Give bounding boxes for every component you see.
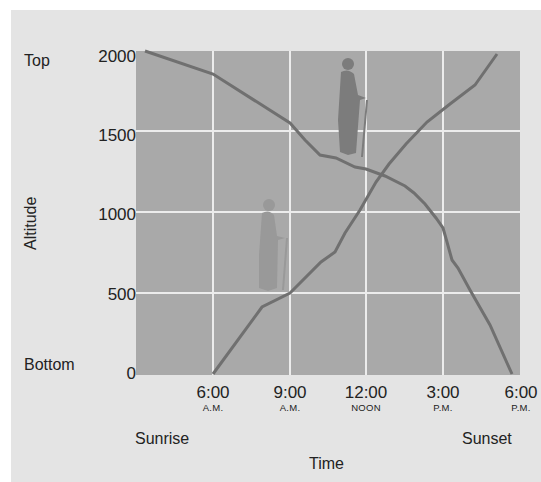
bottom-label: Bottom (24, 356, 75, 374)
x-tick-time: 12:00 (331, 384, 401, 402)
x-tick-9am: 9:00 A.M. (255, 384, 325, 413)
y-tick-500: 500 (108, 285, 136, 305)
x-tick-sub: P.M. (486, 402, 541, 413)
x-tick-6am: 6:00 A.M. (178, 384, 248, 413)
x-tick-3pm: 3:00 P.M. (408, 384, 478, 413)
sunset-label: Sunset (462, 430, 512, 448)
x-tick-time: 6:00 (178, 384, 248, 402)
y-axis-label: Altitude (22, 197, 40, 250)
x-axis-label: Time (309, 455, 344, 473)
x-tick-time: 3:00 (408, 384, 478, 402)
x-tick-sub: A.M. (255, 402, 325, 413)
x-tick-sub: NOON (331, 402, 401, 413)
monk-descending-icon (338, 58, 367, 157)
y-tick-2000: 2000 (98, 47, 136, 67)
y-tick-1500: 1500 (98, 126, 136, 146)
y-tick-1000: 1000 (98, 205, 136, 225)
y-tick-0: 0 (127, 364, 136, 384)
x-tick-sub: P.M. (408, 402, 478, 413)
x-tick-time: 6:00 (486, 384, 541, 402)
x-tick-noon: 12:00 NOON (331, 384, 401, 413)
x-tick-6pm: 6:00 P.M. (486, 384, 541, 413)
gridlines (136, 51, 520, 375)
top-label: Top (24, 52, 50, 70)
sunrise-label: Sunrise (135, 430, 189, 448)
x-tick-sub: A.M. (178, 402, 248, 413)
x-tick-time: 9:00 (255, 384, 325, 402)
